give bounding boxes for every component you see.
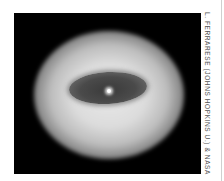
galaxy-nucleus	[107, 89, 111, 93]
page-edge-divider	[221, 0, 222, 181]
photo-credit-text: L. FERRARESE (JOHNS HOPKINS U.) & NASA	[204, 12, 211, 175]
photo-credit: L. FERRARESE (JOHNS HOPKINS U.) & NASA	[201, 13, 213, 174]
galaxy-photo	[14, 13, 201, 174]
